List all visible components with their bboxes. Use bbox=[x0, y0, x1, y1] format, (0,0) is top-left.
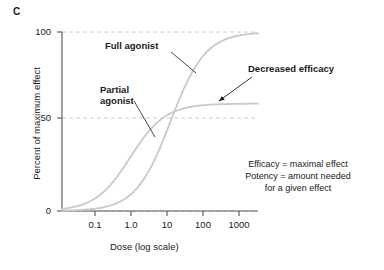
leader-line-partial-agonist bbox=[134, 101, 155, 137]
y-tick-label-0: 0 bbox=[21, 205, 51, 216]
x-tick-label-10: 10 bbox=[150, 219, 184, 230]
dose-response-figure: C 100 50 bbox=[0, 0, 384, 270]
annotation-decreased-efficacy: Decreased efficacy bbox=[248, 63, 334, 74]
y-axis-title: Percent of maximum effect bbox=[32, 43, 43, 203]
annotation-partial-agonist: Partial agonist bbox=[100, 84, 134, 106]
arrow-decreased-efficacy bbox=[219, 77, 252, 101]
x-tick-label-100: 100 bbox=[186, 219, 220, 230]
y-tick-label-100: 100 bbox=[21, 26, 51, 37]
x-tick-label-0.1: 0.1 bbox=[78, 219, 112, 230]
x-tick-label-1.0: 1.0 bbox=[114, 219, 148, 230]
leader-line-full-agonist bbox=[171, 52, 196, 73]
definitions-text: Efficacy = maximal effect Potency = amou… bbox=[218, 158, 378, 194]
annotation-full-agonist: Full agonist bbox=[105, 40, 158, 51]
x-axis-title: Dose (log scale) bbox=[110, 242, 179, 253]
x-tick-label-1000: 1000 bbox=[222, 219, 256, 230]
